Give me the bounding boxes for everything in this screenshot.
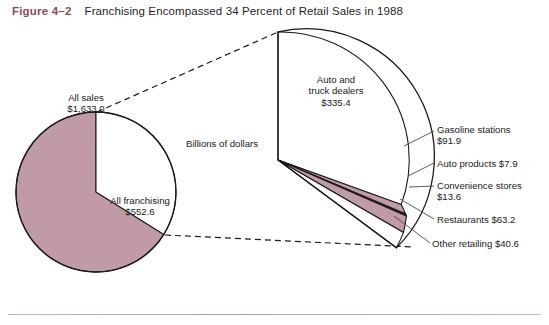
label-gasoline-value: $91.9	[437, 135, 511, 146]
label-convenience-name: Convenience stores	[437, 180, 522, 191]
label-gasoline-name: Gasoline stations	[437, 124, 511, 135]
callout-line-gasoline	[404, 131, 434, 146]
label-all-franchising: All franchising $552.6	[92, 195, 188, 218]
label-convenience-value: $13.6	[437, 191, 522, 202]
figure-container: Figure 4–2 Franchising Encompassed 34 Pe…	[0, 0, 549, 325]
figure-bottom-rule	[8, 314, 541, 315]
label-units-billions-of-dollars: Billions of dollars	[170, 138, 274, 149]
label-other-retailing: Other retailing $40.6	[432, 238, 519, 249]
callout-line-auto-products	[408, 163, 434, 176]
label-auto-truck-line1: Auto and	[286, 74, 386, 85]
explosion-leader-upper	[97, 32, 278, 112]
label-gasoline-stations: Gasoline stations $91.9	[437, 124, 511, 147]
label-auto-truck-line2: truck dealers	[286, 85, 386, 96]
label-restaurants: Restaurants $63.2	[437, 214, 515, 225]
label-auto-and-truck-dealers: Auto and truck dealers $335.4	[286, 74, 386, 108]
explosion-leader-lower	[165, 235, 413, 247]
breakdown-slice-auto-truck-dealers	[278, 32, 409, 205]
label-all-sales: All sales $1,633.0	[48, 92, 124, 115]
label-auto-truck-value: $335.4	[286, 97, 386, 108]
label-convenience-stores: Convenience stores $13.6	[437, 180, 522, 203]
label-all-sales-name: All sales	[48, 92, 124, 103]
label-auto-products: Auto products $7.9	[437, 158, 518, 169]
label-all-franchising-name: All franchising	[92, 195, 188, 206]
label-all-sales-value: $1,633.0	[48, 103, 124, 114]
label-all-franchising-value: $552.6	[92, 206, 188, 217]
